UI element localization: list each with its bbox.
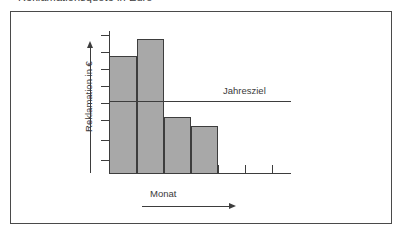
x-axis-tick <box>245 165 246 174</box>
x-axis-tick <box>218 165 219 174</box>
x-axis-label: Monat <box>150 188 176 199</box>
y-axis-tick <box>101 140 109 141</box>
y-axis-tick <box>101 160 109 161</box>
x-axis-tick <box>137 165 138 174</box>
x-axis-tick <box>191 165 192 174</box>
target-line <box>109 101 291 102</box>
chart-frame: Jahresziel Reklamation in € Monat <box>10 11 392 224</box>
bar-month-4[interactable] <box>191 126 218 174</box>
x-axis-tick <box>164 165 165 174</box>
plot-area: Jahresziel Reklamation in € Monat <box>11 12 393 225</box>
y-axis-tick <box>101 120 109 121</box>
bar-month-1[interactable] <box>109 56 137 174</box>
x-axis-tick <box>109 165 110 174</box>
y-axis-tick <box>101 35 109 36</box>
bar-month-3[interactable] <box>164 117 191 174</box>
page-title: Reklamationsquote in Euro <box>18 0 153 3</box>
target-line-label: Jahresziel <box>223 85 266 96</box>
y-axis-tick <box>101 52 109 53</box>
y-axis-caption: Reklamation in € <box>74 43 92 173</box>
x-axis-tick <box>272 165 273 174</box>
y-axis-tick <box>101 69 109 70</box>
y-axis-label: Reklamation in € <box>83 36 94 158</box>
y-axis-tick <box>101 86 109 87</box>
x-axis-arrow-shaft <box>142 206 230 207</box>
y-axis-tick <box>101 103 109 104</box>
arrow-right-icon <box>229 203 236 209</box>
bar-month-2[interactable] <box>137 39 164 174</box>
